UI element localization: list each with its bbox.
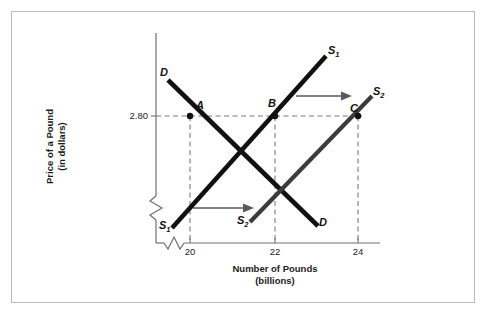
point-label-A: A bbox=[196, 99, 204, 111]
y-axis-title-line1: Price of a Pound bbox=[44, 109, 55, 184]
y-axis-title: Price of a Pound (in dollars) bbox=[44, 82, 67, 212]
supply-demand-chart-figure: 20 22 24 2.80 Number of Pounds (billions… bbox=[0, 0, 488, 316]
x-axis-title-line1: Number of Pounds bbox=[233, 263, 318, 274]
point-marker-B[interactable] bbox=[272, 113, 278, 119]
x-axis-title-line2: (billions) bbox=[255, 275, 295, 286]
demand-curve-label-bottom: D bbox=[319, 216, 327, 228]
point-label-C: C bbox=[350, 102, 358, 114]
supply2-label-sub-top: 2 bbox=[380, 91, 384, 100]
point-label-B: B bbox=[268, 97, 276, 109]
supply1-label-sub-top: 1 bbox=[335, 50, 339, 59]
supply2-curve-label-bottom: S2 bbox=[237, 214, 249, 229]
supply2-label-sub-bottom: 2 bbox=[244, 220, 248, 229]
x-tick-label-20: 20 bbox=[175, 246, 205, 257]
y-axis-break-zigzag bbox=[150, 196, 162, 220]
supply1-label-sub-bottom: 1 bbox=[166, 225, 170, 234]
x-tick-label-24: 24 bbox=[343, 246, 373, 257]
supply-curve-S1[interactable] bbox=[172, 56, 326, 228]
y-tick-label-280: 2.80 bbox=[112, 110, 148, 121]
supply2-curve-label-top: S2 bbox=[373, 85, 385, 100]
supply-curve-S2[interactable] bbox=[250, 96, 372, 222]
supply1-curve-label-bottom: S1 bbox=[159, 219, 171, 234]
point-marker-A[interactable] bbox=[187, 113, 193, 119]
supply-shift-arrow-upper bbox=[296, 92, 352, 101]
supply-shift-arrow-lower bbox=[193, 204, 254, 213]
x-tick-label-22: 22 bbox=[260, 246, 290, 257]
x-axis-title: Number of Pounds (billions) bbox=[190, 263, 360, 286]
demand-curve-label-top: D bbox=[160, 66, 168, 78]
y-axis-title-line2: (in dollars) bbox=[55, 122, 66, 171]
supply1-curve-label-top: S1 bbox=[328, 44, 340, 59]
